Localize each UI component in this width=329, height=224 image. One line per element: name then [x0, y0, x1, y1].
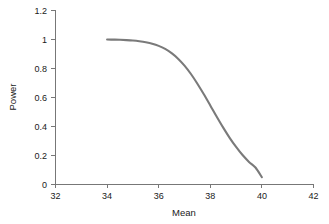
y-axis-title: Power — [7, 84, 18, 111]
y-tick-label-0.6: 0.6 — [34, 93, 47, 103]
x-tick-label-34: 34 — [102, 191, 112, 201]
y-tick-label-0.8: 0.8 — [34, 64, 47, 74]
chart-svg: 0 0.2 0.4 0.6 0.8 1 1.2 32 34 36 38 40 4… — [0, 0, 329, 224]
x-tick-label-42: 42 — [308, 191, 318, 201]
y-tick-label-0.4: 0.4 — [34, 122, 47, 132]
x-tick-label-32: 32 — [50, 191, 60, 201]
y-tick-label-0: 0 — [42, 180, 47, 190]
x-tick-label-38: 38 — [205, 191, 215, 201]
y-axis-ticks — [51, 11, 55, 185]
x-tick-label-36: 36 — [154, 191, 164, 201]
y-tick-label-1.2: 1.2 — [34, 6, 47, 16]
y-tick-label-1: 1 — [42, 35, 47, 45]
x-axis-title: Mean — [172, 207, 196, 218]
x-tick-label-40: 40 — [257, 191, 267, 201]
y-tick-label-0.2: 0.2 — [34, 151, 47, 161]
power-curve-chart: 0 0.2 0.4 0.6 0.8 1 1.2 32 34 36 38 40 4… — [0, 0, 329, 224]
power-curve-line — [107, 40, 262, 178]
